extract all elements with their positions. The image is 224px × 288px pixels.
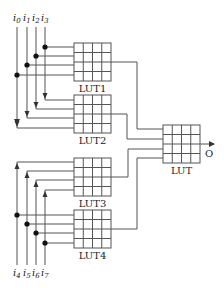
lut1-block [74, 43, 111, 81]
input-label-i6: i6 [32, 267, 40, 280]
input-label-i2: i2 [32, 12, 40, 25]
input-label-i7: i7 [41, 267, 49, 280]
wire-i3 [45, 27, 74, 100]
wire-i7 [45, 190, 74, 265]
wire-i6 [36, 180, 74, 265]
wire-i5 [27, 171, 74, 265]
lut2-label: LUT2 [79, 135, 107, 146]
lut4-block [74, 210, 111, 248]
input-label-i5: i5 [23, 267, 31, 280]
input-label-i0: i0 [13, 12, 21, 25]
final-lut-label: LUT [171, 165, 193, 176]
wire-lut4-out [111, 158, 163, 229]
lut3-label: LUT3 [79, 198, 107, 209]
lut4-label: LUT4 [79, 250, 107, 261]
wire-lut1-out [111, 62, 163, 129]
bottom-input-labels: i4 i5 i6 i7 [13, 267, 49, 280]
input-label-i1: i1 [23, 12, 31, 25]
lut2-block [74, 95, 111, 133]
final-lut-block [163, 125, 200, 163]
wire-i2 [36, 27, 74, 109]
output-label: O [205, 148, 213, 159]
lut3-block [74, 158, 111, 196]
lut-output-wires [111, 62, 163, 229]
input-label-i4: i4 [13, 267, 21, 280]
lut1-label: LUT1 [79, 83, 107, 94]
wire-i1 [27, 27, 74, 118]
lut-diagram: i0 i1 i2 i3 i4 i5 i6 i7 [0, 0, 224, 288]
input-label-i3: i3 [41, 12, 49, 25]
top-input-labels: i0 i1 i2 i3 [13, 12, 49, 25]
